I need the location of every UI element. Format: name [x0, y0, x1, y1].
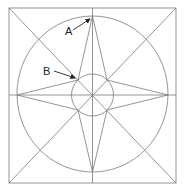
arrow-b-icon: [54, 71, 75, 78]
label-b: B: [43, 65, 75, 78]
arrow-a-icon: [73, 19, 90, 30]
compass-rose-diagram: A B: [0, 0, 185, 192]
svg-text:B: B: [43, 65, 50, 77]
svg-text:A: A: [65, 25, 73, 37]
label-a: A: [65, 19, 90, 37]
